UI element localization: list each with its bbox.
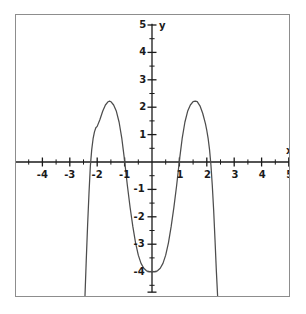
x-tick-label-5: 5	[286, 170, 290, 180]
x-tick-label-1: 1	[177, 170, 184, 180]
plot-canvas	[16, 15, 289, 296]
x-tick-label-3: 3	[231, 170, 238, 180]
plot-frame: -4-3-2-11234554321-1-2-3-4 x y	[15, 14, 290, 297]
y-tick-label-4: 4	[139, 47, 146, 57]
y-tick-label-3: 3	[139, 75, 146, 85]
y-tick-label-2: 2	[139, 102, 146, 112]
chart-figure: -4-3-2-11234554321-1-2-3-4 x y	[0, 0, 306, 314]
x-axis-label: x	[286, 146, 290, 156]
x-tick-label-4: 4	[259, 170, 266, 180]
x-tick-label-neg4: -4	[37, 170, 48, 180]
y-tick-label-1: 1	[139, 130, 146, 140]
y-tick-label-5: 5	[139, 20, 146, 30]
x-tick-label-2: 2	[204, 170, 211, 180]
y-axis-label: y	[159, 21, 166, 31]
x-tick-label-neg2: -2	[92, 170, 103, 180]
y-tick-label-neg1: -1	[134, 184, 145, 194]
x-tick-label-neg3: -3	[64, 170, 75, 180]
y-tick-label-neg4: -4	[134, 267, 145, 277]
y-tick-label-neg2: -2	[134, 212, 145, 222]
y-tick-label-neg3: -3	[134, 239, 145, 249]
x-tick-label-neg1: -1	[119, 170, 130, 180]
curve-path	[85, 101, 218, 296]
